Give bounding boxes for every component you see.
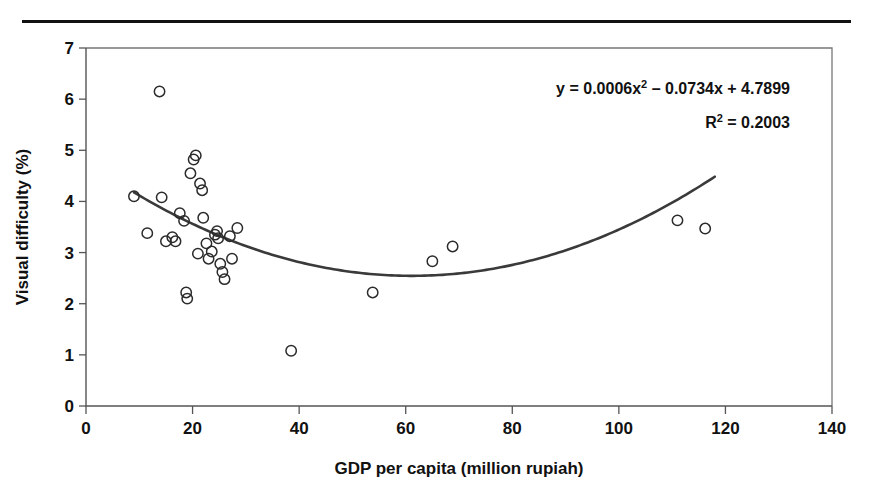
- x-tick-label: 20: [183, 419, 202, 438]
- y-tick-label: 4: [65, 192, 75, 211]
- x-tick-label: 40: [290, 419, 309, 438]
- data-point-marker: [185, 168, 195, 178]
- y-tick-label: 2: [65, 295, 74, 314]
- y-tick-label: 3: [65, 244, 74, 263]
- data-point-marker: [700, 223, 710, 233]
- data-point-marker: [198, 213, 208, 223]
- y-tick-label: 7: [65, 39, 74, 58]
- x-tick-label: 140: [818, 419, 846, 438]
- data-point-marker: [219, 274, 229, 284]
- x-tick-label: 100: [605, 419, 633, 438]
- y-tick-label: 6: [65, 90, 74, 109]
- caption-divider-rule: [22, 20, 851, 23]
- scatter-chart: 01234567020406080100120140GDP per capita…: [0, 28, 871, 489]
- r-squared-text: R2 = 0.2003: [705, 112, 790, 131]
- data-point-marker: [672, 215, 682, 225]
- x-axis-title: GDP per capita (million rupiah): [334, 459, 583, 478]
- data-point-marker: [227, 254, 237, 264]
- data-point-marker: [142, 228, 152, 238]
- chart-svg: 01234567020406080100120140GDP per capita…: [0, 28, 871, 489]
- x-tick-label: 60: [396, 419, 415, 438]
- figure-container: 01234567020406080100120140GDP per capita…: [0, 0, 871, 489]
- data-point-marker: [232, 223, 242, 233]
- data-point-marker: [195, 178, 205, 188]
- data-point-marker: [156, 192, 166, 202]
- x-tick-label: 80: [503, 419, 522, 438]
- y-axis-title: Visual difficulty (%): [13, 149, 32, 306]
- data-point-marker: [154, 86, 164, 96]
- data-point-marker: [193, 248, 203, 258]
- y-tick-label: 5: [65, 141, 74, 160]
- data-point-marker: [286, 346, 296, 356]
- regression-equation-text: y = 0.0006x2 – 0.0734x + 4.7899: [556, 78, 790, 97]
- data-point-marker: [427, 256, 437, 266]
- x-tick-label: 0: [81, 419, 90, 438]
- y-tick-label: 1: [65, 346, 74, 365]
- trendline-quadratic: [134, 177, 715, 276]
- y-tick-label: 0: [65, 397, 74, 416]
- data-point-marker: [367, 287, 377, 297]
- data-point-marker: [197, 185, 207, 195]
- data-point-marker: [447, 241, 457, 251]
- x-tick-label: 120: [711, 419, 739, 438]
- data-point-marker: [182, 293, 192, 303]
